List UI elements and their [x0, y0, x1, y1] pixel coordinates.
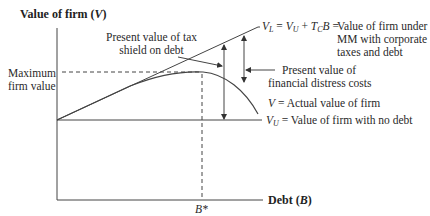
vl-equation-label: VL = VU + TCB =: [262, 20, 339, 36]
tax-shield-label: Present value of tax shield on debt: [106, 31, 197, 57]
capital-structure-diagram: Value of firm (V) Maximum firm value Pre…: [0, 0, 430, 216]
b-star-label: B*: [195, 203, 208, 216]
y-axis-label: Value of firm (V): [20, 8, 107, 21]
distress-costs-label: Present value of financial distress cost…: [278, 64, 371, 90]
actual-value-label: V = Actual value of firm: [268, 97, 380, 110]
vu-label: VU = Value of firm with no debt: [266, 114, 413, 130]
vl-description: Value of firm under MM with corporate ta…: [337, 20, 427, 59]
x-axis-label: Debt (B): [268, 194, 312, 207]
actual-value-curve: [57, 72, 258, 120]
max-firm-value-label: Maximum firm value: [8, 67, 56, 93]
